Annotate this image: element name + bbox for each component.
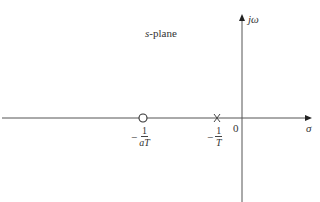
zero-label-numerator: 1 (141, 125, 148, 137)
sigma-axis-arrow-icon (305, 115, 312, 121)
zero-label-minus: − (131, 131, 137, 143)
sigma-axis-label: σ (306, 123, 311, 134)
zero-marker-icon (139, 114, 147, 122)
pole-label-minus: − (207, 131, 213, 143)
plane-title-suffix: -plane (149, 27, 176, 39)
plane-title: s-plane (145, 28, 177, 39)
pole-label-numerator: 1 (215, 125, 222, 137)
origin-label: 0 (233, 123, 239, 134)
jw-axis-arrow-icon (239, 14, 245, 21)
pole-label: − 1 T (207, 125, 222, 148)
zero-label-denominator: aT (139, 137, 150, 148)
zero-label: − 1 aT (131, 125, 150, 148)
jw-axis-label: jω (248, 14, 259, 25)
pole-label-denominator: T (216, 137, 222, 148)
